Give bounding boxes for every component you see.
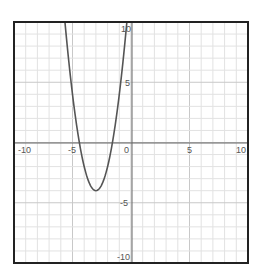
- y-tick-label: -5: [120, 198, 128, 208]
- x-tick-label: 10: [236, 145, 246, 155]
- y-tick-label: 5: [125, 78, 130, 88]
- y-tick-label: 10: [121, 24, 131, 34]
- x-tick-label: 0: [124, 145, 129, 155]
- x-tick-label: 5: [187, 145, 192, 155]
- x-tick-label: -10: [18, 145, 31, 155]
- x-tick-label: -5: [68, 145, 76, 155]
- function-graph: -10 -5 0 5 10 10 5 -5 -10: [0, 0, 262, 266]
- y-tick-label: -10: [117, 252, 130, 262]
